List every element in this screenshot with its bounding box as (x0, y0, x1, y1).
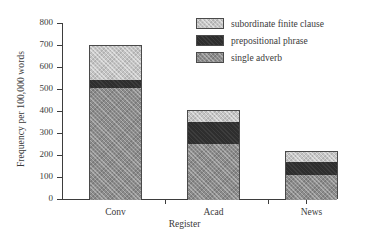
y-tick-label-800: 800 (40, 17, 54, 27)
bar-conv-segment-subordinate-finite-clause (90, 46, 141, 80)
legend-item-single-adverb: single adverb (196, 49, 324, 66)
y-tick-700: 700 (57, 45, 63, 46)
y-tick-500: 500 (57, 89, 63, 90)
bar-acad-segment-subordinate-finite-clause (188, 111, 239, 122)
y-tick-label-300: 300 (40, 127, 54, 137)
bar-news-segment-subordinate-finite-clause (286, 152, 337, 162)
x-axis-label-acad: Acad (173, 207, 254, 217)
legend-label-prepositional-phrase: prepositional phrase (231, 36, 308, 46)
legend-label-single-adverb: single adverb (231, 53, 282, 63)
y-tick-label-500: 500 (40, 83, 54, 93)
y-tick-label-100: 100 (40, 171, 54, 181)
legend: subordinate finite clause prepositional … (196, 15, 324, 66)
x-tick-2 (268, 199, 269, 204)
bar-acad-segment-single-adverb (188, 144, 239, 200)
x-tick-1 (165, 199, 166, 204)
stacked-bar-chart: Frequency per 100,000 words 0 100 200 30… (0, 0, 371, 246)
bar-acad (187, 110, 240, 199)
bar-conv-segment-prepositional-phrase (90, 80, 141, 88)
y-tick-label-600: 600 (40, 61, 54, 71)
y-tick-300: 300 (57, 133, 63, 134)
y-tick-800: 800 (57, 23, 63, 24)
bar-news-segment-prepositional-phrase (286, 162, 337, 175)
bar-news-segment-single-adverb (286, 175, 337, 200)
legend-swatch-single-adverb (196, 52, 224, 63)
y-tick-0: 0 (57, 199, 63, 200)
y-tick-label-700: 700 (40, 39, 54, 49)
y-tick-600: 600 (57, 67, 63, 68)
bar-conv (89, 45, 142, 199)
bar-conv-segment-single-adverb (90, 88, 141, 200)
y-axis-title: Frequency per 100,000 words (16, 14, 26, 204)
legend-swatch-prepositional-phrase (196, 35, 224, 46)
bar-acad-segment-prepositional-phrase (188, 122, 239, 144)
legend-label-subordinate-finite-clause: subordinate finite clause (231, 19, 324, 29)
bar-news (285, 151, 338, 199)
x-axis-title: Register (62, 219, 307, 229)
legend-item-prepositional-phrase: prepositional phrase (196, 32, 324, 49)
y-tick-100: 100 (57, 177, 63, 178)
y-tick-label-200: 200 (40, 149, 54, 159)
x-axis-label-conv: Conv (75, 207, 156, 217)
y-tick-200: 200 (57, 155, 63, 156)
y-tick-label-0: 0 (49, 193, 54, 203)
legend-item-subordinate-finite-clause: subordinate finite clause (196, 15, 324, 32)
x-axis-label-news: News (271, 207, 352, 217)
y-tick-400: 400 (57, 111, 63, 112)
y-tick-label-400: 400 (40, 105, 54, 115)
legend-swatch-subordinate-finite-clause (196, 18, 224, 29)
